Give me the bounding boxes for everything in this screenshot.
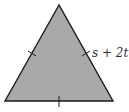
side-label: s + 2t <box>92 46 128 60</box>
triangle-diagram: s + 2t <box>0 0 129 112</box>
